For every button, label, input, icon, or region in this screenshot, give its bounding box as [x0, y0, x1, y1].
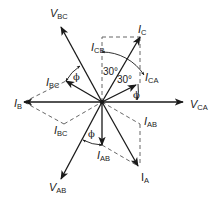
label-i-cb: ICB: [91, 41, 104, 55]
phi-ca: ϕ: [133, 89, 140, 100]
label-i-b: IB: [14, 97, 22, 111]
label-i-ab-right: IAB: [144, 115, 157, 129]
ib-to-ibc-dashed: [24, 81, 66, 102]
origin-dot: [100, 100, 104, 104]
label-i-c: IC: [138, 23, 147, 37]
phi-bc: ϕ: [73, 71, 80, 82]
phi-ab: ϕ: [88, 128, 95, 139]
angle-30-left: 30°: [103, 66, 118, 77]
label-i-ab-bottom: IAB: [97, 149, 110, 163]
ib-to-ibc-lower-dashed: [24, 102, 64, 124]
label-v-ca: VCA: [190, 98, 208, 112]
label-i-bc-bottom: IBC: [54, 124, 68, 138]
phasor-diagram: VBC VCA VAB IC ICB ICA IBC IB IBC IAB IA…: [0, 0, 223, 203]
label-i-bc-top: IBC: [46, 76, 60, 90]
label-i-ca: ICA: [145, 71, 158, 85]
v-ab-arrow: [61, 102, 102, 179]
angle-30-right: 30°: [117, 74, 132, 85]
label-v-bc: VBC: [50, 7, 68, 21]
label-i-a: IA: [141, 171, 149, 185]
label-v-ab: VAB: [49, 181, 66, 195]
arc-phi-ab: [83, 140, 102, 145]
